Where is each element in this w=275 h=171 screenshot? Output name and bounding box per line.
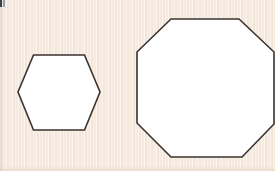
scan-page	[0, 0, 275, 171]
octagon-shape	[137, 19, 274, 157]
hexagon-shape	[18, 55, 100, 130]
scan-edge-artifact	[0, 0, 5, 7]
shape-canvas	[0, 0, 275, 171]
